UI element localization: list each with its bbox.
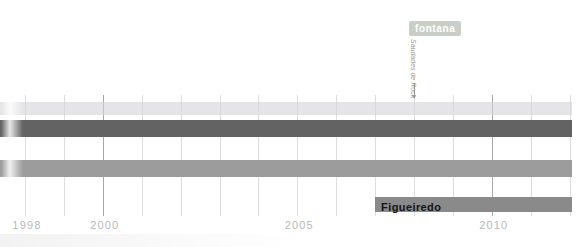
timeline-bar-row-3 bbox=[0, 160, 572, 177]
left-edge-fade bbox=[1, 95, 23, 216]
member-name-label: Figueiredo bbox=[375, 200, 441, 215]
annotation-arrowhead-icon bbox=[412, 95, 416, 99]
year-label-2005: 2005 bbox=[285, 219, 314, 231]
timeline-bar-figueiredo: Figueiredo bbox=[375, 197, 571, 212]
timeline-bar-row-2 bbox=[0, 120, 572, 137]
timeline-chart: Figueiredo 1998200020052010 fontana Saud… bbox=[0, 0, 585, 247]
year-label-2000: 2000 bbox=[90, 219, 119, 231]
timeline-bar-row-1 bbox=[0, 102, 572, 115]
year-label-1998: 1998 bbox=[12, 219, 41, 231]
bottom-left-shading bbox=[0, 234, 300, 247]
fontana-record-label-badge: fontana bbox=[409, 21, 461, 36]
annotation-arrow-line bbox=[414, 83, 415, 95]
year-label-2010: 2010 bbox=[479, 219, 508, 231]
